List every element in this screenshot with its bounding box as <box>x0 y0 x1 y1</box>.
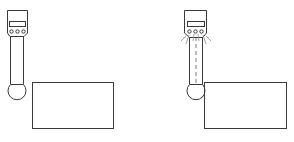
workpiece-right <box>205 83 287 129</box>
probe-head-right <box>185 11 207 38</box>
probe-contact-panel <box>181 11 287 129</box>
probe-ball-right <box>187 85 205 100</box>
probe-stem-left <box>11 36 24 85</box>
probe-diagram <box>0 0 294 142</box>
probe-ball-left <box>8 85 26 100</box>
probe-idle-panel <box>8 11 114 129</box>
workpiece-left <box>33 83 114 129</box>
probe-head-left <box>8 11 28 37</box>
